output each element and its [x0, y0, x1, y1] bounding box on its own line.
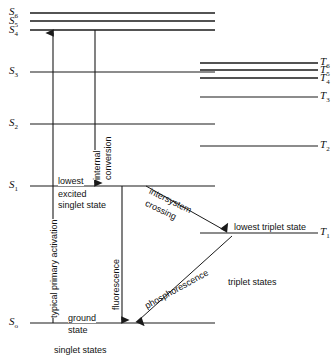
activation-label: typical primary activation — [49, 219, 59, 318]
internal-conversion-label-line1: internal — [92, 150, 102, 180]
level-label-t1: T1 — [320, 226, 330, 240]
level-label-s4: S4 — [9, 24, 18, 38]
lowest-label: lowest — [58, 176, 84, 186]
internal-conversion-label-line2: conversion — [103, 136, 113, 180]
state-label: state — [68, 325, 88, 335]
triplet-states-caption: triplet states — [228, 277, 277, 287]
ground-label: ground — [68, 313, 96, 323]
level-label-s3: S3 — [9, 65, 18, 79]
singlet-state-label: singlet state — [58, 200, 106, 210]
level-label-s1: S1 — [9, 179, 18, 193]
level-label-s0: So — [9, 316, 18, 330]
jablonski-diagram: S6 S5 S4 S3 S2 S1 So T6 T5 T4 T3 T2 T1 t… — [0, 0, 335, 364]
level-label-t2: T2 — [320, 139, 330, 153]
level-label-t3: T3 — [320, 90, 330, 104]
level-label-t4: T4 — [320, 72, 330, 86]
singlet-states-caption: singlet states — [54, 345, 107, 355]
excited-label: excited — [58, 189, 87, 199]
lowest-triplet-state-label: lowest triplet state — [234, 222, 306, 232]
triplet-level-lines — [200, 63, 318, 233]
level-label-s2: S2 — [9, 117, 18, 131]
fluorescence-label: fluorescence — [111, 259, 121, 310]
